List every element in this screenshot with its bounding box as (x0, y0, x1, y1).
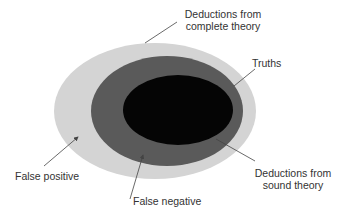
complete-theory-pointer (145, 22, 177, 43)
label-sound-line2: sound theory (248, 179, 338, 191)
label-false-positive: False positive (15, 170, 79, 182)
label-sound-line1: Deductions from (248, 167, 338, 179)
label-complete-theory: Deductions from complete theory (178, 8, 268, 32)
label-false-negative: False negative (133, 195, 201, 207)
label-sound-theory: Deductions from sound theory (248, 167, 338, 191)
label-complete-line2: complete theory (178, 20, 268, 32)
label-truths: Truths (252, 57, 281, 69)
inner-ellipse-sound-theory (123, 75, 233, 145)
label-complete-line1: Deductions from (178, 8, 268, 20)
false-positive-arrow (44, 137, 78, 166)
